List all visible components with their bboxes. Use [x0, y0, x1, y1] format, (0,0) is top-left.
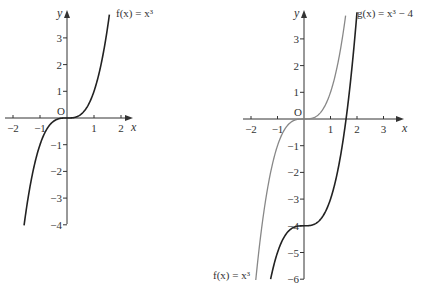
y-axis-arrow-icon [64, 10, 70, 18]
x-tick-label: −1 [34, 122, 46, 134]
x-tick-label: 2 [118, 122, 124, 134]
y-tick-label: −3 [50, 192, 62, 204]
x-axis-label: x [401, 121, 408, 135]
y-axis-label: y [293, 6, 300, 20]
y-tick-label: 3 [294, 33, 300, 45]
y-tick-label: −2 [50, 165, 62, 177]
y-tick-label: 1 [294, 86, 300, 98]
chart-f: xyO−2−112321−1−2−3−4 [5, 6, 137, 231]
y-tick-label: 3 [57, 32, 63, 44]
x-tick-label: −2 [245, 123, 257, 135]
y-tick-label: −4 [50, 219, 62, 231]
x-axis-label: x [130, 120, 137, 134]
curve-g [271, 12, 357, 279]
origin-label: O [294, 106, 302, 118]
curve-label-f-right: f(x) = x³ [213, 269, 251, 282]
y-tick-label: −1 [50, 139, 62, 151]
curve-f [256, 16, 346, 280]
y-tick-label: −1 [287, 140, 299, 152]
y-tick-label: −5 [287, 247, 299, 259]
y-tick-label: 1 [57, 85, 63, 97]
y-tick-label: 2 [294, 60, 300, 72]
y-axis-arrow-icon [301, 10, 307, 18]
curve-label-g: g(x) = x³ − 4 [357, 7, 414, 20]
chart-g-vs-f: xyO−2−1123321−1−2−3−4−5−6 [243, 6, 408, 285]
x-tick-label: −1 [272, 123, 284, 135]
y-tick-label: 2 [57, 59, 63, 71]
chart-canvas: xyO−2−112321−1−2−3−4xyO−2−1123321−1−2−3−… [0, 0, 428, 296]
origin-label: O [57, 105, 65, 117]
x-tick-label: 1 [91, 122, 97, 134]
y-tick-label: −3 [287, 193, 299, 205]
x-tick-label: 3 [381, 123, 387, 135]
x-tick-label: −2 [7, 122, 19, 134]
y-tick-label: −6 [287, 273, 299, 285]
y-tick-label: −2 [287, 166, 299, 178]
x-tick-label: 1 [328, 123, 334, 135]
y-axis-label: y [56, 6, 63, 20]
curve-label-f-left: f(x) = x³ [116, 7, 154, 20]
x-tick-label: 2 [354, 123, 360, 135]
